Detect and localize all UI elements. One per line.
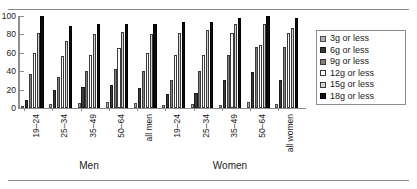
bar-group xyxy=(49,16,72,108)
x-axis-tick-mark xyxy=(109,108,110,111)
bar-group xyxy=(106,16,129,108)
bar xyxy=(25,100,28,108)
bar-group xyxy=(219,16,242,108)
bar xyxy=(37,33,40,108)
legend-label: 3g or less xyxy=(330,34,369,43)
bar xyxy=(194,93,197,108)
bar xyxy=(223,80,226,108)
bar-group xyxy=(162,16,185,108)
bar xyxy=(174,55,177,108)
legend-swatch xyxy=(320,93,326,99)
x-axis-tick-mark xyxy=(165,108,166,111)
y-axis-tick-label: 80 xyxy=(0,30,16,39)
legend-item[interactable]: 3g or less xyxy=(320,33,402,45)
bar xyxy=(33,53,36,108)
y-axis-tick-label: 20 xyxy=(0,86,16,95)
x-axis-tick-mark xyxy=(222,108,223,111)
bar-group xyxy=(78,16,101,108)
x-axis-tick-mark xyxy=(81,108,82,111)
x-axis-tick-label: all men xyxy=(144,114,154,141)
bar xyxy=(287,33,290,108)
x-axis-tick-mark xyxy=(52,108,53,111)
bar xyxy=(234,24,237,108)
y-axis-line xyxy=(18,16,20,108)
x-axis-tick-label: 19–24 xyxy=(31,114,41,138)
x-axis-tick-mark xyxy=(194,108,195,111)
x-axis-tick-mark xyxy=(278,108,279,111)
bar xyxy=(121,32,124,108)
bar xyxy=(202,55,205,108)
bar xyxy=(69,26,72,108)
bar-group xyxy=(21,16,44,108)
legend-item[interactable]: 9g or less xyxy=(320,56,402,68)
bar xyxy=(125,24,128,108)
bar xyxy=(251,72,254,108)
bar xyxy=(238,18,241,108)
bar xyxy=(97,24,100,108)
x-axis-line xyxy=(18,108,306,109)
bar xyxy=(283,47,286,108)
bar xyxy=(182,22,185,108)
bar xyxy=(263,24,266,108)
x-axis-tick-label: 35–49 xyxy=(88,114,98,138)
bar xyxy=(170,80,173,108)
bar xyxy=(153,24,156,108)
bar xyxy=(29,74,32,108)
bar xyxy=(138,88,141,108)
bar-group xyxy=(247,16,270,108)
bar xyxy=(266,16,269,108)
bar xyxy=(114,69,117,108)
legend-label: 9g or less xyxy=(330,57,369,66)
x-axis-tick-label: 25–34 xyxy=(59,114,69,138)
bar xyxy=(142,71,145,108)
legend-label: 18g or less xyxy=(330,92,374,101)
legend-item[interactable]: 6g or less xyxy=(320,45,402,57)
bar xyxy=(117,48,120,108)
legend-label: 6g or less xyxy=(330,46,369,55)
legend-swatch xyxy=(320,47,326,53)
bar xyxy=(279,80,282,108)
bar xyxy=(230,33,233,108)
bar xyxy=(57,77,60,108)
x-axis-tick-mark xyxy=(24,108,25,111)
bar xyxy=(40,16,43,108)
bar xyxy=(259,45,262,108)
bar xyxy=(65,41,68,108)
legend-item[interactable]: 12g or less xyxy=(320,68,402,80)
bar xyxy=(227,55,230,108)
bar xyxy=(85,71,88,108)
bar-group xyxy=(134,16,157,108)
y-axis-tick-label: 0 xyxy=(0,104,16,113)
chart-legend: 3g or less6g or less9g or less12g or les… xyxy=(316,30,406,105)
bar xyxy=(53,90,56,108)
bar xyxy=(89,55,92,108)
bar xyxy=(166,94,169,108)
y-axis-tick-label: 60 xyxy=(0,49,16,58)
x-axis-tick-label: 50–64 xyxy=(116,114,126,138)
bar xyxy=(210,22,213,108)
legend-item[interactable]: 18g or less xyxy=(320,91,402,103)
bar xyxy=(61,56,64,108)
bar xyxy=(291,28,294,108)
legend-item[interactable]: 15g or less xyxy=(320,79,402,91)
x-axis-tick-mark xyxy=(137,108,138,111)
bar-group xyxy=(275,16,298,108)
x-axis-tick-label: 50–64 xyxy=(257,114,267,138)
bar xyxy=(295,18,298,108)
x-axis-tick-label: all women xyxy=(285,114,295,152)
bar xyxy=(206,30,209,108)
y-axis-tick-label: 40 xyxy=(0,67,16,76)
bar xyxy=(198,71,201,108)
group-title: Men xyxy=(21,160,157,171)
bar xyxy=(110,85,113,108)
bar xyxy=(93,34,96,108)
bar xyxy=(81,87,84,108)
legend-label: 15g or less xyxy=(330,80,374,89)
legend-swatch xyxy=(320,70,326,76)
top-divider xyxy=(8,9,409,10)
bottom-divider xyxy=(8,180,409,181)
bar xyxy=(150,34,153,108)
bar-chart-plot-area: 020406080100 xyxy=(18,16,306,108)
legend-swatch xyxy=(320,59,326,65)
bar-group xyxy=(191,16,214,108)
